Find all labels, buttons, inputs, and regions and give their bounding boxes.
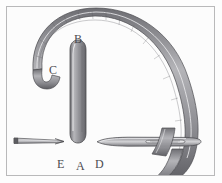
vertical-needle — [70, 40, 86, 143]
label-d: D — [95, 158, 104, 170]
plain-needle — [14, 138, 64, 144]
label-b: B — [74, 33, 82, 45]
needles-illustration — [0, 0, 222, 183]
label-e: E — [57, 158, 65, 170]
figure-root: B C A D E — [0, 0, 222, 183]
label-c: C — [49, 64, 57, 76]
label-a: A — [76, 160, 85, 172]
